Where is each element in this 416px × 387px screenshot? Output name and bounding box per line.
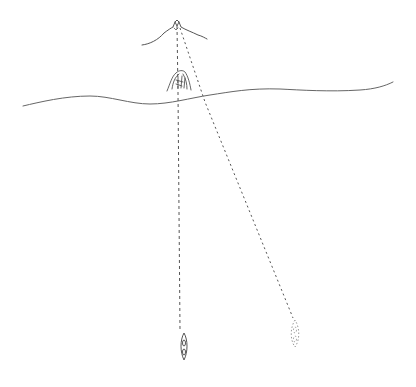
horizon-line — [23, 82, 393, 106]
sight-line-b — [180, 28, 293, 318]
rock-landmark-icon — [167, 71, 191, 91]
mountain-peak-icon — [142, 20, 207, 45]
solid-boat-icon — [181, 333, 187, 360]
sketch-canvas — [0, 0, 416, 387]
ghost-boat-icon — [291, 320, 299, 347]
